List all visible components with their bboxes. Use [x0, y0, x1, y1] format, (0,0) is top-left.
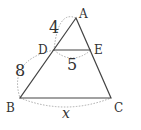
- measure-db: 8: [15, 61, 25, 80]
- label-c: C: [114, 101, 123, 115]
- label-a: A: [78, 7, 88, 21]
- triangle-abc: [20, 18, 111, 98]
- triangle-diagram: A B C D E 4 8 5 x: [0, 0, 141, 130]
- label-e: E: [94, 43, 103, 57]
- measure-ad: 4: [49, 18, 59, 37]
- label-b: B: [6, 101, 15, 115]
- measure-de: 5: [67, 55, 77, 74]
- label-d: D: [38, 43, 48, 57]
- measure-bc: x: [62, 105, 70, 121]
